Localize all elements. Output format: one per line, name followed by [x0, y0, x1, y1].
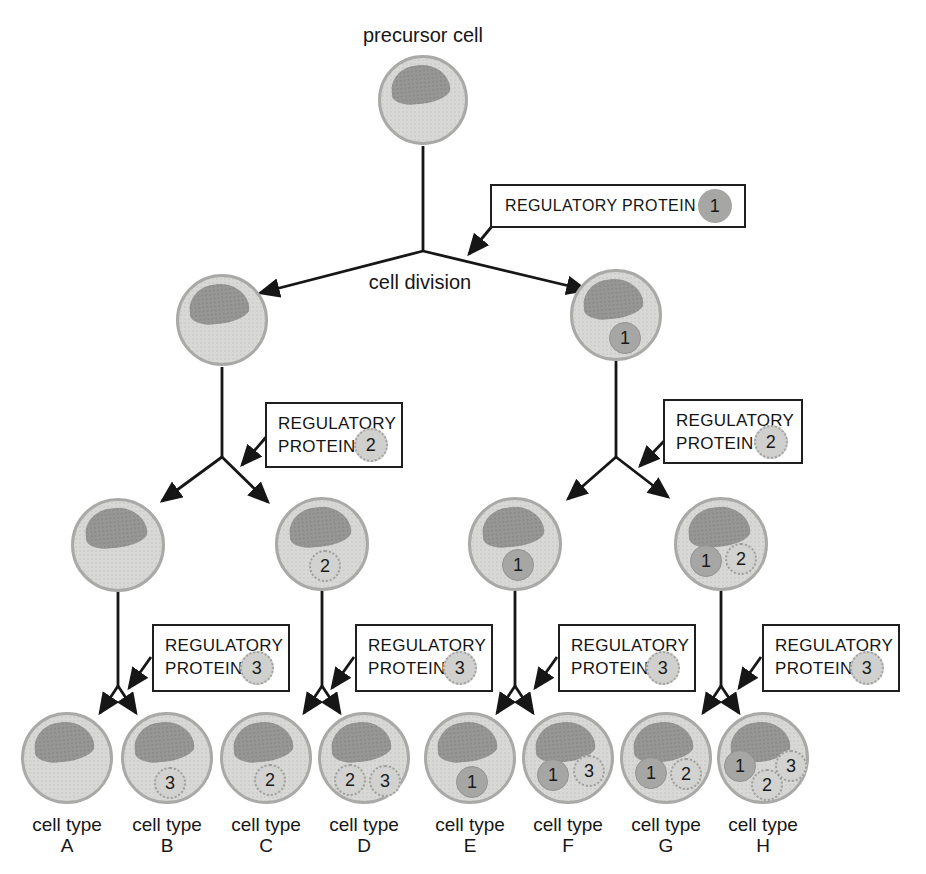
nucleus: [330, 719, 393, 764]
regulatory-protein-1-label: REGULATORY PROTEIN: [505, 197, 696, 215]
box-label-line2: PROTEIN: [571, 659, 649, 678]
cell-type-text: cell type: [728, 814, 798, 835]
cell-type-h: 1 2 3: [717, 712, 809, 804]
nucleus: [33, 719, 96, 764]
protein-3-marker: 3: [154, 767, 186, 799]
protein-1-marker: 1: [635, 757, 667, 789]
cell-type-e: 1: [424, 712, 516, 804]
protein-3-marker: 3: [573, 755, 605, 787]
nucleus: [232, 719, 295, 764]
daughter-cell-left: [176, 274, 268, 366]
daughter-cell-right: 1: [570, 269, 662, 361]
cell-type-a: [21, 712, 113, 804]
cell-type-letter: A: [61, 835, 74, 856]
cell-type-label-d: cell type D: [316, 814, 412, 856]
cell-type-d: 2 3: [318, 712, 410, 804]
cell-type-label-h: cell type H: [715, 814, 811, 856]
protein-3-badge: 3: [646, 651, 680, 685]
nucleus: [582, 276, 645, 321]
granddaughter-cell-4: 1 2: [674, 497, 768, 591]
cell-type-letter: B: [161, 835, 174, 856]
cell-type-letter: E: [464, 835, 477, 856]
cell-type-label-c: cell type C: [218, 814, 314, 856]
box-label-line1: REGULATORY: [775, 636, 893, 655]
granddaughter-cell-1: [71, 498, 165, 592]
box-label-line2: PROTEIN: [676, 434, 754, 453]
box-label-line2: PROTEIN: [368, 659, 446, 678]
protein-2-marker: 2: [725, 543, 757, 575]
protein-2-marker: 2: [670, 758, 702, 790]
cell-type-label-b: cell type B: [119, 814, 215, 856]
cell-type-letter: F: [562, 835, 574, 856]
cell-division-label: cell division: [350, 271, 490, 294]
cell-type-text: cell type: [533, 814, 603, 835]
cell-type-b: 3: [121, 712, 213, 804]
protein-2-marker: 2: [334, 764, 366, 796]
regulatory-protein-3-box-a: REGULATORY PROTEIN 3: [152, 624, 290, 692]
granddaughter-cell-2: 2: [275, 497, 369, 591]
nucleus: [188, 281, 251, 326]
cell-type-text: cell type: [631, 814, 701, 835]
cell-type-letter: C: [259, 835, 273, 856]
box-label-line1: REGULATORY: [571, 636, 689, 655]
cell-type-f: 1 3: [522, 712, 614, 804]
cell-type-text: cell type: [435, 814, 505, 835]
protein-3-marker: 3: [369, 765, 401, 797]
protein-1-badge: 1: [698, 189, 732, 223]
protein-1-marker: 1: [690, 545, 722, 577]
regulatory-protein-2-box-right: REGULATORY PROTEIN 2: [663, 399, 803, 464]
cell-type-label-g: cell type G: [618, 814, 714, 856]
cell-type-text: cell type: [32, 814, 102, 835]
cell-type-text: cell type: [231, 814, 301, 835]
protein-2-badge: 2: [754, 425, 788, 459]
protein-1-marker: 1: [456, 766, 488, 798]
cell-differentiation-diagram: precursor cell cell division REGULATORY …: [0, 0, 926, 874]
regulatory-protein-3-box-b: REGULATORY PROTEIN 3: [355, 624, 493, 692]
precursor-cell: [378, 55, 468, 145]
nucleus: [287, 504, 352, 550]
protein-1-marker: 1: [724, 750, 756, 782]
box-label-line1: REGULATORY: [165, 636, 283, 655]
protein-1-marker: 1: [609, 322, 641, 354]
box-label-line2: PROTEIN: [775, 659, 853, 678]
cell-type-text: cell type: [132, 814, 202, 835]
precursor-cell-label: precursor cell: [340, 24, 506, 47]
nucleus: [83, 505, 148, 551]
protein-2-marker: 2: [309, 550, 341, 582]
regulatory-protein-2-box-left: REGULATORY PROTEIN 2: [265, 402, 403, 468]
regulatory-protein-3-box-c: REGULATORY PROTEIN 3: [558, 624, 696, 692]
box-label-line1: REGULATORY: [368, 636, 486, 655]
cell-type-g: 1 2: [620, 712, 712, 804]
cell-type-letter: H: [756, 835, 770, 856]
protein-3-marker: 3: [775, 750, 807, 782]
protein-3-badge: 3: [850, 651, 884, 685]
protein-3-badge: 3: [443, 651, 477, 685]
nucleus: [480, 504, 545, 550]
cell-type-c: 2: [220, 712, 312, 804]
cell-type-label-f: cell type F: [520, 814, 616, 856]
cell-type-label-e: cell type E: [422, 814, 518, 856]
protein-2-badge: 2: [354, 428, 388, 462]
cell-type-label-a: cell type A: [19, 814, 115, 856]
box-label-line2: PROTEIN: [278, 437, 356, 456]
nucleus: [133, 719, 196, 764]
cell-type-letter: D: [357, 835, 371, 856]
nucleus: [436, 719, 499, 764]
cell-type-letter: G: [659, 835, 674, 856]
regulatory-protein-3-box-d: REGULATORY PROTEIN 3: [762, 624, 900, 692]
nucleus: [390, 62, 452, 106]
protein-3-badge: 3: [240, 651, 274, 685]
regulatory-protein-1-box: REGULATORY PROTEIN 1: [490, 184, 746, 228]
protein-1-marker: 1: [502, 549, 534, 581]
protein-1-marker: 1: [537, 759, 569, 791]
protein-2-marker: 2: [254, 764, 286, 796]
box-label-line2: PROTEIN: [165, 659, 243, 678]
granddaughter-cell-3: 1: [468, 497, 562, 591]
cell-type-text: cell type: [329, 814, 399, 835]
